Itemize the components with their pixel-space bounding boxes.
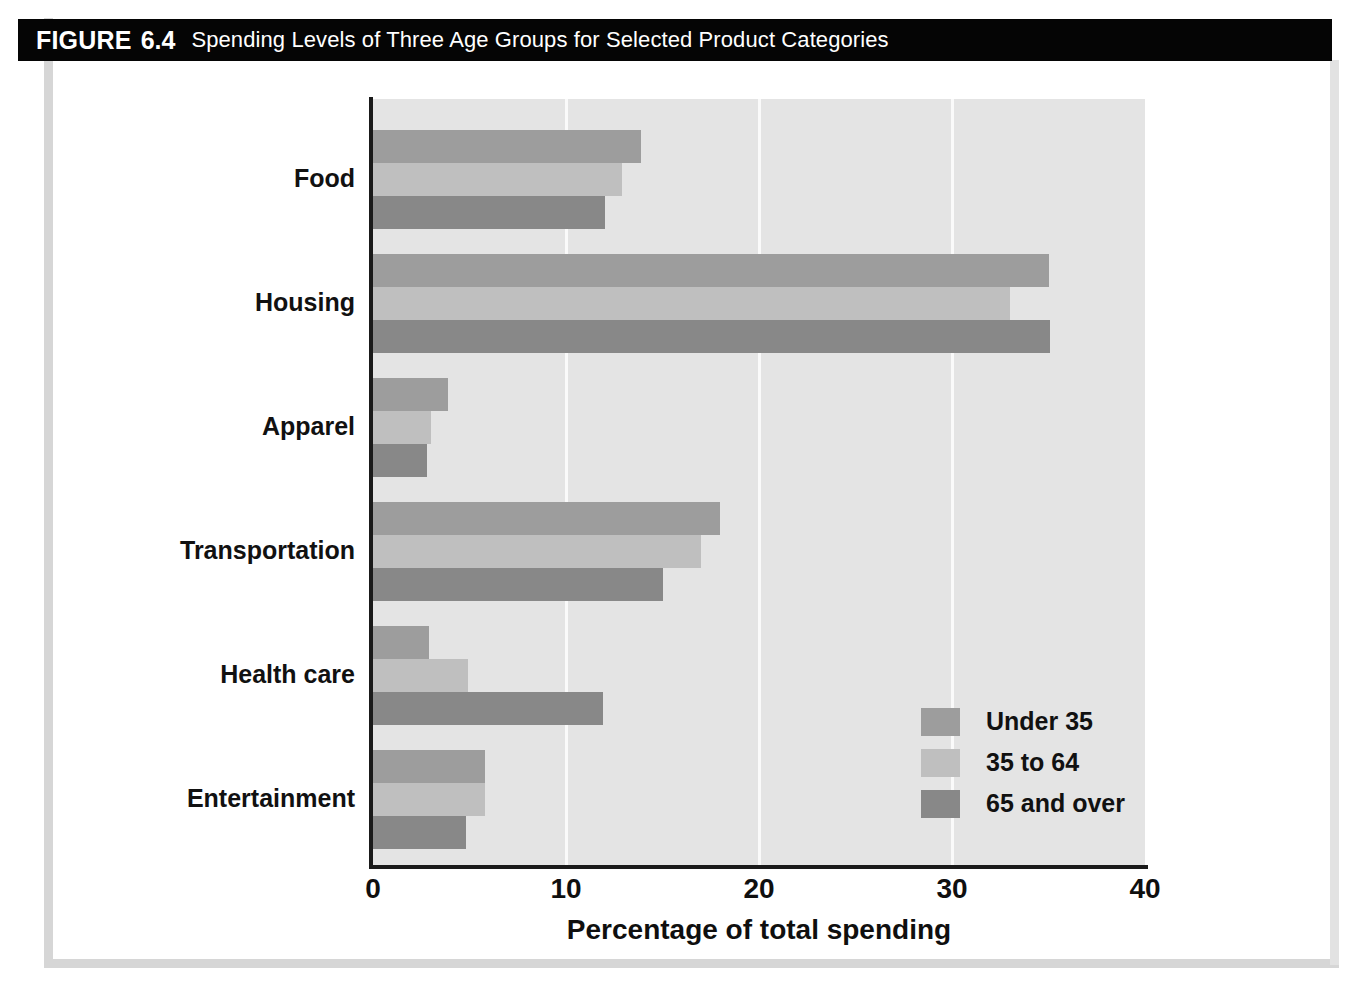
legend-swatch [921, 749, 960, 777]
bar [373, 535, 701, 568]
bar [373, 816, 466, 849]
bar [373, 378, 448, 411]
x-tick-10: 10 [550, 873, 581, 905]
x-tick-0: 0 [365, 873, 381, 905]
legend-label: 65 and over [986, 789, 1125, 818]
y-axis-line [369, 97, 373, 867]
bar [373, 444, 427, 477]
x-tick-40: 40 [1129, 873, 1160, 905]
x-tick-20: 20 [743, 873, 774, 905]
bar [373, 163, 622, 196]
legend-item: Under 35 [921, 701, 1141, 742]
gridline-20 [758, 99, 761, 865]
bar [373, 626, 429, 659]
x-tick-30: 30 [936, 873, 967, 905]
bar [373, 502, 720, 535]
bar [373, 287, 1010, 320]
bar [373, 659, 468, 692]
x-axis-line [369, 865, 1148, 869]
bar [373, 196, 605, 229]
bar [373, 320, 1050, 353]
y-axis-label-food: Food [0, 164, 355, 193]
legend-label: 35 to 64 [986, 748, 1079, 777]
legend-item: 65 and over [921, 783, 1141, 824]
legend-item: 35 to 64 [921, 742, 1141, 783]
y-axis-label-apparel: Apparel [0, 412, 355, 441]
y-axis-label-health-care: Health care [0, 660, 355, 689]
y-axis-label-entertainment: Entertainment [0, 784, 355, 813]
bar [373, 692, 603, 725]
bar [373, 783, 485, 816]
chart-legend: Under 3535 to 6465 and over [921, 701, 1141, 824]
bar [373, 130, 641, 163]
y-axis-label-housing: Housing [0, 288, 355, 317]
bar-chart: FoodHousingApparelTransportationHealth c… [0, 0, 1354, 993]
bar [373, 750, 485, 783]
bar [373, 411, 431, 444]
bar [373, 568, 663, 601]
legend-swatch [921, 708, 960, 736]
legend-label: Under 35 [986, 707, 1093, 736]
y-axis-label-transportation: Transportation [0, 536, 355, 565]
x-axis-title: Percentage of total spending [373, 914, 1145, 946]
bar [373, 254, 1049, 287]
legend-swatch [921, 790, 960, 818]
